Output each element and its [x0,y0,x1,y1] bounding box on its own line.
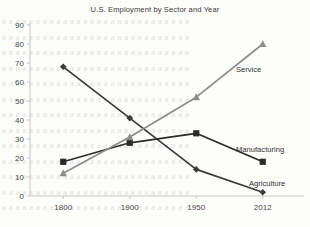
y-axis-tick-label: 20 [15,154,24,163]
x-axis-tick-label: 2012 [254,203,272,212]
y-axis-tick-label: 90 [15,21,24,30]
y-axis-tick-label: 70 [15,59,24,68]
chart-plot-area: 01020304050607080901800190019502012 Serv… [0,0,310,227]
series-label-service: Service [236,65,261,74]
chart-series-group [60,40,267,195]
data-point-marker [127,140,133,146]
series-label-agriculture: Agriculture [249,179,285,188]
series-line [63,67,263,192]
chart-series-annotations: ServiceManufacturingAgriculture [236,65,285,188]
y-axis-tick-label: 0 [20,192,25,201]
y-axis-tick-label: 60 [15,78,24,87]
y-axis-tick-label: 30 [15,135,24,144]
x-axis-tick-label: 1800 [54,203,72,212]
data-point-marker [193,130,199,136]
x-axis-tick-label: 1950 [187,203,205,212]
series-label-manufacturing: Manufacturing [236,145,284,154]
chart-series-agriculture [60,64,266,196]
x-axis-tick-label: 1900 [121,203,139,212]
chart-figure: a a a a a a a a a a a a a a a a a a a a … [0,0,310,227]
data-point-marker [259,189,266,196]
chart-series-service [60,40,267,176]
y-axis-tick-label: 80 [15,40,24,49]
y-axis-tick-label: 50 [15,97,24,106]
chart-series-manufacturing [60,130,266,165]
data-point-marker [60,169,67,176]
data-point-marker [126,133,133,140]
y-axis-tick-label: 40 [15,116,24,125]
data-point-marker [259,40,266,47]
data-point-marker [260,159,266,165]
data-point-marker [60,159,66,165]
y-axis-tick-label: 10 [15,173,24,182]
